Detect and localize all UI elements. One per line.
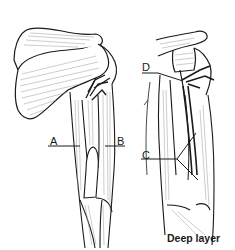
leader-line-D-pointer xyxy=(158,73,183,81)
leader-line-C-upper xyxy=(177,133,196,159)
caption-deep-layer: Deep layer xyxy=(167,232,220,244)
label-b: B xyxy=(117,136,124,147)
left-shoulder xyxy=(14,28,116,119)
label-d: D xyxy=(142,62,150,73)
leader-line-C-lower xyxy=(177,159,198,180)
right-nerve-bundle xyxy=(182,66,214,180)
label-c: C xyxy=(142,150,150,161)
label-a: A xyxy=(50,136,57,147)
arm-illustration xyxy=(0,0,235,250)
right-shoulder-hatching xyxy=(160,38,195,65)
